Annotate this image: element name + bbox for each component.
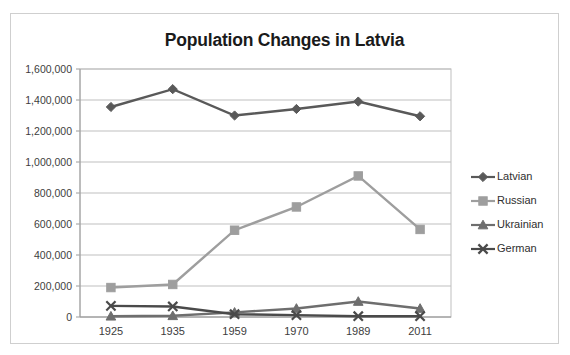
legend-item-ukrainian[interactable]: Ukrainian xyxy=(471,218,543,230)
data-point-latvian-2011 xyxy=(415,112,424,121)
data-point-latvian-1935 xyxy=(168,85,177,94)
x-axis-tick-label: 2011 xyxy=(408,325,432,337)
y-axis-tick-label: 400,000 xyxy=(34,249,72,261)
data-series-group xyxy=(106,85,425,321)
y-axis-tick-label: 600,000 xyxy=(34,218,72,230)
data-point-russian-1959 xyxy=(230,226,238,234)
data-point-russian-1970 xyxy=(292,203,300,211)
population-line-chart: 0200,000400,000600,000800,0001,000,0001,… xyxy=(11,14,560,345)
legend-marker-square-icon xyxy=(479,197,487,205)
legend-item-latvian[interactable]: Latvian xyxy=(471,170,532,182)
gridlines-group xyxy=(76,69,451,317)
x-axis-tick-labels: 192519351959197019892011 xyxy=(99,325,432,337)
data-point-russian-1989 xyxy=(354,172,362,180)
x-axis-tick-label: 1989 xyxy=(346,325,370,337)
x-axis-tick-label: 1935 xyxy=(161,325,185,337)
legend-item-german[interactable]: German xyxy=(471,242,537,254)
legend-label-ukrainian: Ukrainian xyxy=(497,218,543,230)
y-axis-tick-label: 1,400,000 xyxy=(25,94,72,106)
data-point-russian-1925 xyxy=(107,283,115,291)
y-axis-tick-label: 200,000 xyxy=(34,280,72,292)
legend-marker-diamond-icon xyxy=(478,172,487,181)
legend-label-german: German xyxy=(497,242,537,254)
series-russian xyxy=(107,172,425,292)
series-latvian xyxy=(106,85,424,121)
y-axis-tick-label: 1,200,000 xyxy=(25,125,72,137)
chart-legend: LatvianRussianUkrainianGerman xyxy=(471,170,543,254)
chart-frame: Population Changes in Latvia 0200,000400… xyxy=(10,13,559,344)
series-line-latvian xyxy=(111,89,420,116)
data-point-latvian-1970 xyxy=(292,104,301,113)
y-axis-tick-label: 1,000,000 xyxy=(25,156,72,168)
data-point-russian-2011 xyxy=(416,225,424,233)
legend-label-latvian: Latvian xyxy=(497,170,532,182)
legend-item-russian[interactable]: Russian xyxy=(471,194,537,206)
data-point-latvian-1925 xyxy=(106,102,115,111)
data-point-russian-1935 xyxy=(169,280,177,288)
y-axis-tick-label: 800,000 xyxy=(34,187,72,199)
x-axis-tick-label: 1959 xyxy=(222,325,246,337)
y-axis-tick-label: 1,600,000 xyxy=(25,63,72,75)
x-axis-tick-label: 1970 xyxy=(284,325,308,337)
legend-label-russian: Russian xyxy=(497,194,537,206)
y-axis-tick-labels: 0200,000400,000600,000800,0001,000,0001,… xyxy=(25,63,72,323)
y-axis-tick-label: 0 xyxy=(66,311,72,323)
data-point-latvian-1989 xyxy=(354,97,363,106)
data-point-latvian-1959 xyxy=(230,111,239,120)
x-axis-tick-label: 1925 xyxy=(99,325,123,337)
